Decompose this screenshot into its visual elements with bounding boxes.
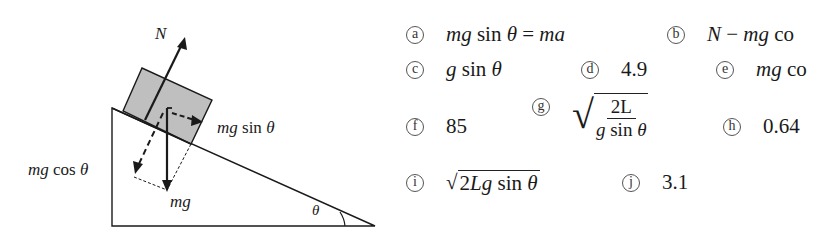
option-g-value: √ 2L g sin θ	[572, 93, 648, 141]
option-a-value: mg sin θ = ma	[446, 22, 565, 47]
option-h-badge: h	[723, 118, 741, 136]
option-i[interactable]: i √ 2Lg sin θ	[406, 170, 540, 196]
option-b-badge: b	[667, 26, 685, 44]
option-e-value: mg co	[756, 57, 807, 82]
option-f-value: 85	[446, 114, 467, 139]
option-j-value: 3.1	[662, 170, 688, 195]
incline-force-diagram	[0, 0, 390, 232]
option-a[interactable]: a mg sin θ = ma	[406, 22, 565, 47]
option-c-badge: c	[406, 61, 424, 79]
angle-label: θ	[312, 202, 319, 219]
option-d-value: 4.9	[621, 57, 647, 82]
option-d-badge: d	[581, 61, 599, 79]
option-a-badge: a	[406, 26, 424, 44]
option-e-badge: e	[716, 61, 734, 79]
arrowhead-icon	[133, 161, 143, 174]
option-g[interactable]: g √ 2L g sin θ	[532, 93, 648, 141]
option-d[interactable]: d 4.9	[581, 57, 647, 82]
normal-force-label: N	[155, 24, 166, 44]
option-f[interactable]: f 85	[406, 114, 467, 139]
parallel-component-label: mg sin θ	[217, 118, 274, 138]
option-e[interactable]: e mg co	[716, 57, 807, 82]
option-c-value: g sin θ	[446, 57, 502, 82]
option-i-badge: i	[406, 174, 424, 192]
perpendicular-component-label: mg cos θ	[28, 160, 88, 180]
arrowhead-icon	[177, 37, 187, 50]
option-h-value: 0.64	[763, 114, 800, 139]
option-j-badge: j	[622, 174, 640, 192]
option-b[interactable]: b N − mg co	[667, 22, 794, 47]
option-f-badge: f	[406, 118, 424, 136]
option-c[interactable]: c g sin θ	[406, 57, 502, 82]
weight-label: mg	[170, 192, 191, 212]
option-j[interactable]: j 3.1	[622, 170, 688, 195]
option-b-value: N − mg co	[707, 22, 794, 47]
option-h[interactable]: h 0.64	[723, 114, 800, 139]
arrowhead-icon	[162, 180, 172, 192]
option-i-value: √ 2Lg sin θ	[446, 170, 540, 196]
angle-arc	[340, 212, 345, 226]
option-g-badge: g	[532, 98, 550, 116]
